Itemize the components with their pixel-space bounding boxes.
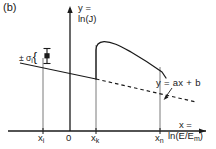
y-axis [67,6,72,131]
x-axis-label-paren: ) [200,130,203,141]
tick-label-x-k-sub: k [96,137,100,144]
error-bar-label: ± σi{ [19,50,37,64]
x-axis-label-line1: x = [179,119,192,130]
data-point-marker [44,53,49,58]
tick-label-x-n: xn [155,133,164,144]
fit-line-solid-segment [20,63,96,79]
y-axis-label-line1: y = [78,2,91,13]
y-axis-label: y = ln(J) [78,3,96,24]
figure-panel-b: (b) y = ln(J) x = ln(E/Em) xi 0 xk xn ± … [0,0,216,149]
tick-label-x-n-sub: n [160,137,164,144]
tick-label-x-i: xi [38,133,44,144]
x-axis-label: x = ln(E/Em) [168,120,203,142]
panel-tag: (b) [3,2,16,14]
x-axis-label-expr: ln(E/E [168,130,194,141]
tick-label-origin-base: 0 [66,132,71,143]
y-axis-label-line2: ln(J) [78,14,96,24]
fit-equation-leader-arrow [164,88,172,100]
tick-label-x-i-sub: i [43,137,45,144]
measured-data-curve [96,42,166,79]
error-bar-marker [44,48,51,64]
x-axis-label-line2: ln(E/Em) [168,131,203,142]
fit-equation-label: y = ax + b [156,78,201,88]
reference-gridlines [43,45,160,131]
tick-label-x-k: xk [91,133,99,144]
error-bar-brace: { [33,49,37,64]
error-bar-label-sigma: ± σ [19,53,31,63]
y-axis-arrowhead [67,6,72,13]
tick-label-origin: 0 [66,133,71,143]
